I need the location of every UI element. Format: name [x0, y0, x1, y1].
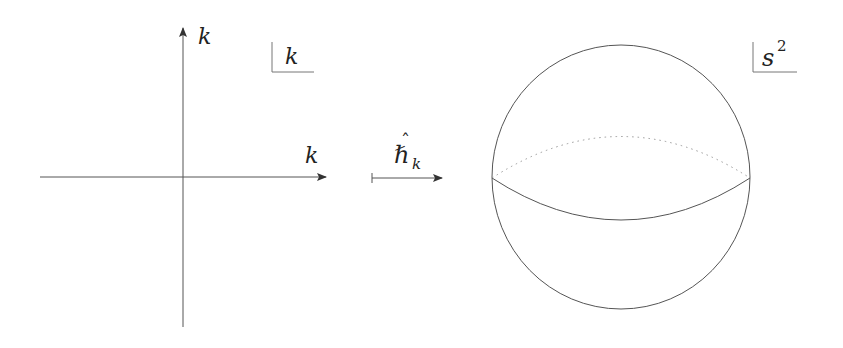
maps-to-arrow: ℏ ˆ k	[372, 131, 442, 183]
space-label-k: k	[285, 44, 298, 69]
sphere-equator-front	[492, 178, 750, 220]
vertical-axis-label: k	[198, 24, 211, 49]
space-label-s: s	[762, 44, 774, 72]
diagram-canvas: k k k ℏ ˆ k s 2	[0, 0, 843, 348]
sphere-equator-back	[492, 137, 750, 179]
space-label-box-s2: s 2	[753, 37, 797, 72]
space-label-superscript: 2	[777, 37, 787, 55]
map-label-subscript: k	[412, 155, 421, 173]
coordinate-plane: k k k	[40, 24, 326, 327]
map-label-hat: ˆ	[401, 131, 410, 152]
horizontal-axis-label: k	[305, 143, 318, 168]
sphere-outline	[492, 45, 750, 309]
space-label-box-k: k	[272, 42, 314, 72]
sphere: s 2	[492, 37, 797, 309]
